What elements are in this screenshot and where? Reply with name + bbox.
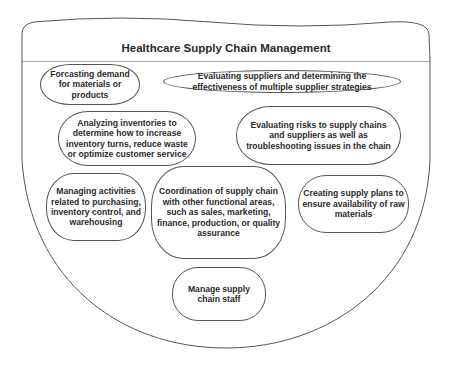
node-evaluating-risks: Evaluating risks to supply chains and su… (236, 106, 401, 165)
diagram-canvas: Healthcare Supply Chain Management Forca… (0, 0, 453, 375)
node-analyzing-inventories: Analyzing inventories to determine how t… (58, 111, 196, 166)
node-coordination: Coordination of supply chain with other … (151, 166, 286, 259)
node-manage-staff: Manage supply chain staff (172, 267, 266, 321)
node-creating-supply-plans: Creating supply plans to ensure availabi… (298, 175, 409, 233)
node-forecasting-demand: Forcasting demand for materials or produ… (40, 64, 140, 105)
diagram-title: Healthcare Supply Chain Management (22, 42, 430, 54)
node-evaluating-suppliers: Evaluating suppliers and determining the… (163, 70, 401, 93)
node-managing-activities: Managing activities related to purchasin… (46, 173, 146, 241)
